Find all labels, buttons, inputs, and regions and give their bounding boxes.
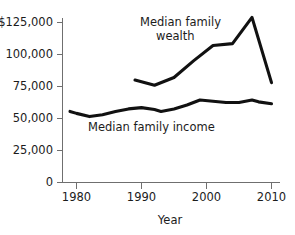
x-tick-label-1990: 1990 xyxy=(127,190,156,204)
series-label-income: Median family income xyxy=(88,120,215,134)
series-line-median-family-income xyxy=(70,100,272,117)
x-tick-label-2000: 2000 xyxy=(192,190,221,204)
x-axis-title: Year xyxy=(157,213,183,227)
x-tick-label-1980: 1980 xyxy=(62,190,91,204)
y-tick-label-100000: 100,000 xyxy=(5,47,53,61)
y-tick-label-125000: $125,000 xyxy=(0,15,53,29)
series-label-wealth-line1: Median family xyxy=(140,15,221,29)
x-tick-label-2010: 2010 xyxy=(257,190,286,204)
y-tick-label-0: 0 xyxy=(46,175,53,189)
series-label-wealth-line2: wealth xyxy=(156,29,195,43)
x-axis-ticks xyxy=(77,183,272,190)
y-tick-label-50000: 50,000 xyxy=(13,111,53,125)
chart-container: $125,000 100,000 75,000 50,000 25,000 0 … xyxy=(0,0,295,235)
y-tick-label-25000: 25,000 xyxy=(13,143,53,157)
line-chart: $125,000 100,000 75,000 50,000 25,000 0 … xyxy=(0,0,295,235)
y-tick-label-75000: 75,000 xyxy=(13,79,53,93)
y-axis-ticks xyxy=(57,23,63,183)
